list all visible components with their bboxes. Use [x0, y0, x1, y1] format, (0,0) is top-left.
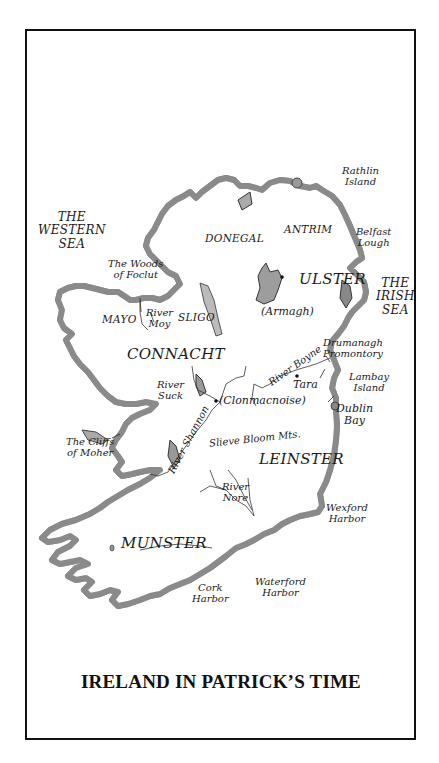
tara-label: Tara [293, 379, 318, 391]
woods-of-foclut-label: The Woods of Foclut [108, 258, 163, 280]
antrim-label: ANTRIM [284, 224, 332, 236]
rathlin-island-shape [292, 178, 302, 188]
lambay-island-label: Lambay Island [349, 371, 389, 393]
ulster-label: ULSTER [299, 271, 366, 288]
mayo-label: MAYO [102, 314, 137, 326]
armagh-dot [280, 275, 284, 279]
dublin-bay-label: Dublin Bay [336, 403, 373, 428]
connacht-label: CONNACHT [127, 346, 225, 363]
clonmacnoise-label: (Clonmacnoise) [219, 395, 306, 407]
waterford-harbor-label: Waterford Harbor [255, 576, 306, 598]
donegal-label: DONEGAL [205, 233, 264, 245]
map-title: IRELAND IN PATRICK’S TIME [25, 671, 417, 693]
armagh-label: (Armagh) [261, 306, 314, 318]
cliffs-of-moher-label: The Cliffs of Moher [66, 436, 114, 458]
wexford-harbor-label: Wexford Harbor [326, 502, 368, 524]
drumanagh-promontory-label: Drumanagh Promontory [323, 337, 383, 359]
munster-label: MUNSTER [121, 535, 207, 552]
river-nore-label: River Nore [222, 481, 249, 503]
river-suck-label: River Suck [157, 379, 184, 401]
western-sea-label: THE WESTERN SEA [38, 211, 106, 251]
cork-harbor-label: Cork Harbor [192, 582, 229, 604]
river-moy-label: River Moy [146, 307, 173, 329]
leinster-label: LEINSTER [259, 451, 344, 468]
rathlin-island-label: Rathlin Island [342, 165, 379, 187]
clonmacnoise-dot [214, 399, 218, 403]
sligo-label: SLIGO [178, 312, 215, 324]
irish-sea-label: THE IRISH SEA [376, 277, 415, 317]
belfast-lough-label: Belfast Lough [356, 226, 391, 248]
